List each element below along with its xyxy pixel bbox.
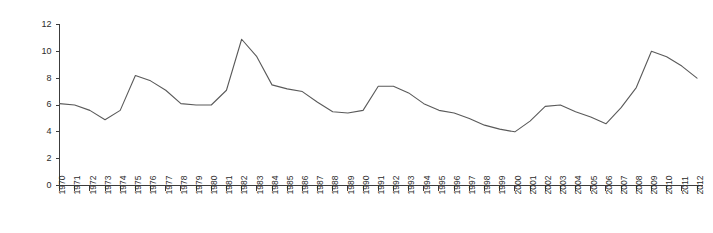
y-tick-label: 6 [46, 99, 51, 109]
x-tick-label: 1979 [194, 175, 204, 194]
x-tick-label: 1985 [285, 175, 295, 194]
x-tick-label: 1997 [467, 175, 477, 194]
x-tick-label: 1999 [497, 175, 507, 194]
y-axis-ticks: 024681012 [41, 19, 59, 190]
x-tick-label: 1991 [376, 175, 386, 194]
x-axis-ticks: 1970197119721973197419751976197719781979… [57, 175, 705, 194]
x-tick-label: 1981 [224, 175, 234, 194]
x-tick-label: 2000 [513, 175, 523, 194]
x-tick-label: 1982 [239, 175, 249, 194]
x-tick-label: 2010 [664, 175, 674, 194]
x-tick-label: 1983 [255, 175, 265, 194]
x-tick-label: 2002 [543, 175, 553, 194]
x-tick-label: 1996 [452, 175, 462, 194]
x-tick-label: 1986 [300, 175, 310, 194]
x-tick-label: 1977 [164, 175, 174, 194]
x-tick-label: 2012 [695, 175, 705, 194]
x-tick-label: 1978 [179, 175, 189, 194]
y-tick-label: 10 [41, 46, 51, 56]
x-tick-label: 1995 [437, 175, 447, 194]
x-tick-label: 2003 [558, 175, 568, 194]
x-tick-label: 1987 [315, 175, 325, 194]
x-tick-label: 1992 [391, 175, 401, 194]
x-tick-label: 2007 [619, 175, 629, 194]
x-tick-label: 2006 [604, 175, 614, 194]
x-tick-label: 1980 [209, 175, 219, 194]
x-tick-label: 1975 [133, 175, 143, 194]
chart-canvas: 024681012 197019711972197319741975197619… [0, 0, 713, 233]
x-tick-label: 1998 [482, 175, 492, 194]
x-tick-label: 1976 [148, 175, 158, 194]
x-tick-label: 1984 [270, 175, 280, 194]
x-tick-label: 2009 [649, 175, 659, 194]
x-tick-label: 1970 [57, 175, 67, 194]
x-tick-label: 1993 [406, 175, 416, 194]
x-tick-label: 1973 [103, 175, 113, 194]
x-tick-label: 2008 [634, 175, 644, 194]
x-tick-label: 1974 [118, 175, 128, 194]
x-tick-label: 1972 [88, 175, 98, 194]
chart-axes [60, 25, 704, 186]
x-tick-label: 2011 [680, 176, 690, 195]
y-tick-label: 12 [41, 19, 51, 29]
x-tick-label: 1994 [422, 175, 432, 194]
line-chart: 024681012 197019711972197319741975197619… [0, 0, 713, 233]
x-tick-label: 2005 [589, 175, 599, 194]
x-tick-label: 2001 [528, 175, 538, 194]
y-tick-label: 4 [46, 126, 51, 136]
series-line [60, 39, 698, 132]
y-tick-label: 0 [46, 180, 51, 190]
x-tick-label: 1990 [361, 175, 371, 194]
y-tick-label: 2 [46, 153, 51, 163]
x-tick-label: 1988 [330, 175, 340, 194]
x-tick-label: 2004 [573, 175, 583, 194]
x-tick-label: 1971 [72, 175, 82, 194]
x-tick-label: 1989 [346, 175, 356, 194]
data-series [60, 39, 698, 132]
y-tick-label: 8 [46, 73, 51, 83]
